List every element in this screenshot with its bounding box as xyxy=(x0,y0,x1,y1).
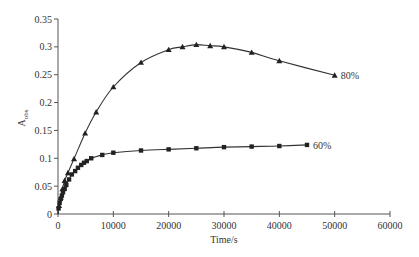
square-marker xyxy=(139,148,143,152)
series-labels: 80%60% xyxy=(313,70,359,151)
y-axis-title-subscript: obs xyxy=(22,109,30,119)
triangle-marker xyxy=(62,178,68,183)
series-label-80pct: 80% xyxy=(341,70,359,81)
fit-curve-60pct xyxy=(58,145,307,214)
y-tick-label: 0.1 xyxy=(40,153,53,164)
x-tick-label: 30000 xyxy=(212,220,237,231)
square-marker xyxy=(222,145,226,149)
square-marker xyxy=(111,151,115,155)
data-markers xyxy=(56,42,338,211)
fit-curve-80pct xyxy=(58,45,335,214)
x-tick-label: 10000 xyxy=(101,220,126,231)
x-tick-label: 40000 xyxy=(267,220,292,231)
y-axis-title: Aobs xyxy=(16,109,30,126)
y-tick-label: 0.3 xyxy=(40,41,53,52)
square-marker xyxy=(67,177,71,181)
square-marker xyxy=(64,183,68,187)
triangle-marker xyxy=(82,130,88,135)
x-tick-label: 50000 xyxy=(322,220,347,231)
x-tick-label: 20000 xyxy=(156,220,181,231)
square-marker xyxy=(89,156,93,160)
x-tick-label: 0 xyxy=(56,220,61,231)
x-axis-title: Time/s xyxy=(210,234,238,245)
series-label-60pct: 60% xyxy=(313,140,331,151)
triangle-marker xyxy=(71,156,77,161)
chart-svg: 010000200003000040000500006000000.050.10… xyxy=(0,0,419,257)
square-marker xyxy=(62,187,66,191)
square-marker xyxy=(305,143,309,147)
square-marker xyxy=(277,144,281,148)
y-tick-label: 0.15 xyxy=(35,125,53,136)
chart-container: 010000200003000040000500006000000.050.10… xyxy=(0,0,419,257)
x-tick-label: 60000 xyxy=(378,220,403,231)
fit-curves xyxy=(58,45,335,214)
y-tick-label: 0.25 xyxy=(35,69,53,80)
square-marker xyxy=(194,146,198,150)
triangle-marker xyxy=(138,59,144,64)
square-marker xyxy=(100,153,104,157)
square-marker xyxy=(249,144,253,148)
y-tick-label: 0.2 xyxy=(40,97,53,108)
square-marker xyxy=(56,206,60,210)
y-tick-label: 0 xyxy=(47,209,52,220)
square-marker xyxy=(166,147,170,151)
square-marker xyxy=(85,159,89,163)
y-tick-label: 0.05 xyxy=(35,181,53,192)
triangle-marker xyxy=(93,109,99,114)
square-marker xyxy=(57,201,61,205)
y-tick-label: 0.35 xyxy=(35,14,53,25)
